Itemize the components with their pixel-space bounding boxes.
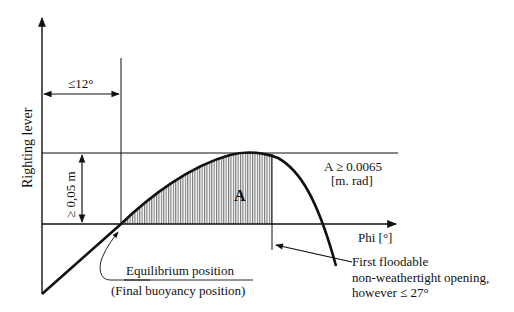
y-axis-label: Righting lever bbox=[20, 107, 35, 188]
righting-lever-diagram: Righting lever Phi [°] ≤12° ≥ 0,05 m A A… bbox=[0, 0, 514, 312]
opening-label-line1: First floodable bbox=[352, 254, 428, 269]
opening-label-line3: however ≤ 27° bbox=[352, 285, 429, 300]
angle-annotation: ≤12° bbox=[68, 76, 93, 91]
equilibrium-label: Equilibrium position bbox=[126, 263, 234, 278]
equilibrium-sublabel: (Final buoyancy position) bbox=[111, 283, 245, 298]
x-axis-label: Phi [°] bbox=[358, 230, 392, 245]
area-criterion-unit: [m. rad] bbox=[331, 173, 373, 188]
area-label: A bbox=[234, 187, 246, 204]
height-annotation: ≥ 0,05 m bbox=[63, 172, 78, 219]
opening-leader bbox=[276, 245, 352, 262]
opening-label-line2: non-weathertight opening, bbox=[352, 270, 489, 285]
area-a-hatched bbox=[121, 153, 272, 224]
area-criterion: A ≥ 0.0065 bbox=[324, 159, 382, 174]
